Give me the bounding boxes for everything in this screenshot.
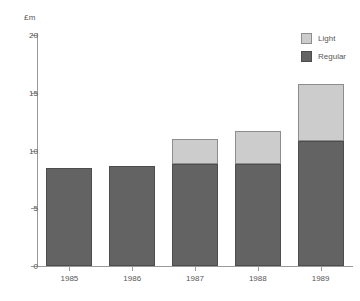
x-tick-label-1986: 1986: [123, 274, 141, 283]
bar-segment-1988-light: [235, 131, 281, 164]
x-tick-label-1988: 1988: [249, 274, 267, 283]
y-tick-label: 5: [12, 204, 38, 213]
legend-item-regular: Regular: [301, 47, 346, 65]
bar-group-1985: [46, 35, 92, 266]
bar-group-1989: [298, 35, 344, 266]
x-tick-label-1987: 1987: [186, 274, 204, 283]
x-tick-mark-1985: [69, 266, 70, 271]
x-tick-mark-1986: [132, 266, 133, 271]
legend-item-light: Light: [301, 29, 346, 47]
bar-segment-1986-regular: [109, 166, 155, 266]
bar-group-1988: [235, 35, 281, 266]
chart-legend: Light Regular: [301, 29, 346, 65]
x-tick-mark-1987: [195, 266, 196, 271]
y-axis-unit-label: £m: [24, 13, 36, 22]
y-tick-label: 0: [12, 262, 38, 271]
y-tick-label: 10: [12, 146, 38, 155]
bar-segment-1987-light: [172, 139, 218, 164]
legend-label-regular: Regular: [318, 52, 346, 61]
x-tick-label-1985: 1985: [60, 274, 78, 283]
stacked-bar-chart: £m 20151050 19851986198719881989 Light R…: [0, 0, 360, 301]
bar-segment-1988-regular: [235, 164, 281, 266]
legend-label-light: Light: [318, 34, 335, 43]
x-tick-label-1989: 1989: [312, 274, 330, 283]
y-tick-label: 20: [12, 31, 38, 40]
y-tick-label: 15: [12, 88, 38, 97]
bar-segment-1987-regular: [172, 164, 218, 266]
x-tick-mark-1989: [321, 266, 322, 271]
x-tick-mark-1988: [258, 266, 259, 271]
bar-group-1987: [172, 35, 218, 266]
bar-segment-1989-light: [298, 84, 344, 142]
legend-swatch-regular-icon: [301, 51, 312, 62]
bar-segment-1985-regular: [46, 168, 92, 266]
bar-segment-1989-regular: [298, 141, 344, 266]
legend-swatch-light-icon: [301, 33, 312, 44]
bar-group-1986: [109, 35, 155, 266]
